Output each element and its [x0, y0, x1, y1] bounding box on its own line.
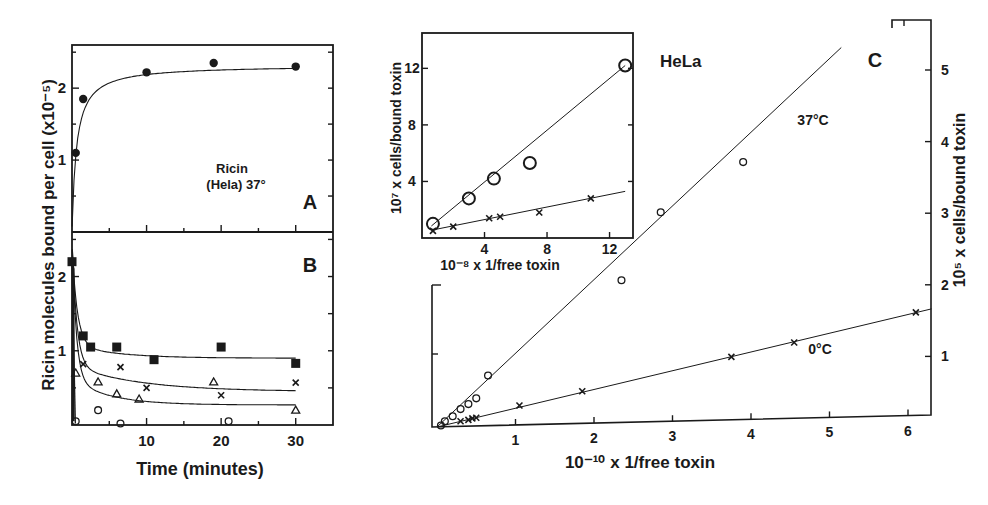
- data-point-filled-square: [217, 343, 226, 352]
- series-label-0c: 0°C: [808, 341, 832, 357]
- y-tick-label: 2: [58, 268, 66, 285]
- x-tick-label: 8: [543, 241, 551, 257]
- panel-letter-c: C: [868, 49, 882, 71]
- panel-a: 12: [58, 52, 333, 232]
- y-tick-label: 1: [58, 342, 66, 359]
- x-tick-label: 12: [602, 241, 618, 257]
- data-point-filled-square: [150, 355, 159, 364]
- data-point-triangle: [210, 378, 218, 385]
- y-tick-label: 2: [58, 79, 66, 96]
- inset-title: HeLa: [660, 52, 702, 71]
- x-axis-title: 10⁻¹⁰ x 1/free toxin: [565, 453, 715, 472]
- annotation: (Hela) 37°: [206, 177, 265, 192]
- panel-b: 12: [58, 239, 333, 425]
- fit-curve: [72, 250, 295, 405]
- fit-curve: [72, 255, 295, 358]
- data-point-triangle: [94, 378, 102, 385]
- panel-b-data: B102030: [68, 249, 318, 449]
- x-tick-label: 20: [213, 432, 230, 449]
- data-point-open-circle: [449, 413, 456, 420]
- data-point-filled-circle: [142, 68, 150, 76]
- data-point-open-circle: [618, 277, 625, 284]
- x-tick-label: 4: [481, 241, 489, 257]
- inset-panel: 4812481210⁷ x cells/bound toxin10⁻⁸ x 1/…: [388, 33, 633, 273]
- y-tick-label: 4: [941, 134, 949, 150]
- x-tick-label: 5: [826, 424, 834, 440]
- x-tick-label: 4: [747, 426, 755, 442]
- x-tick-label: 10: [138, 432, 155, 449]
- x-tick-label: 30: [287, 432, 304, 449]
- data-point-filled-square: [79, 331, 88, 340]
- data-point-filled-circle: [209, 59, 217, 67]
- data-point-open-circle: [740, 159, 747, 166]
- fit-curve: [72, 68, 296, 226]
- data-point-triangle: [292, 406, 300, 413]
- fit-curve: [72, 249, 295, 390]
- data-point-triangle: [113, 390, 121, 397]
- data-point-open-circle: [657, 209, 664, 216]
- initial-spike: [72, 258, 75, 421]
- data-point-filled-square: [291, 359, 300, 368]
- figure-canvas: 1212ARicin(Hela) 37°B102030Ricin molecul…: [0, 0, 988, 505]
- y-tick-label: 1: [58, 151, 66, 168]
- panel-ab-frame: [72, 45, 333, 425]
- data-point-filled-circle: [79, 95, 87, 103]
- y-tick-label: 2: [941, 277, 949, 293]
- y-axis-title: Ricin molecules bound per cell (x10⁻⁵): [39, 79, 58, 391]
- data-point-filled-square: [86, 343, 95, 352]
- x-tick-label: 6: [904, 423, 912, 439]
- panel-ab: 1212ARicin(Hela) 37°B102030: [58, 45, 333, 449]
- data-point-open-circle: [473, 395, 480, 402]
- y-axis-title: 10⁵ x cells/bound toxin: [951, 113, 968, 288]
- x-tick-label: 1: [512, 432, 520, 448]
- y-tick-label: 8: [408, 117, 416, 133]
- data-point-filled-square: [68, 257, 77, 266]
- x-axis-title: Time (minutes): [136, 459, 264, 479]
- annotation: Ricin: [216, 161, 248, 176]
- data-point-filled-circle: [292, 62, 300, 70]
- y-tick-label: 12: [404, 60, 420, 76]
- data-point-filled-square: [112, 343, 121, 352]
- y-tick-label: 5: [941, 62, 949, 78]
- panel-letter-b: B: [303, 254, 317, 276]
- data-point-open-circle: [95, 407, 102, 414]
- data-point-open-circle: [465, 401, 472, 408]
- inset-y-axis-title: 10⁷ x cells/bound toxin: [388, 62, 404, 214]
- data-point-open-circle: [225, 418, 232, 425]
- data-point-open-circle: [457, 406, 464, 413]
- fit-line-0c: [437, 309, 932, 427]
- x-tick-label: 3: [669, 428, 677, 444]
- panel-letter-a: A: [303, 191, 317, 213]
- y-tick-label: 4: [408, 173, 416, 189]
- series-label-37c: 37°C: [797, 112, 828, 128]
- data-point-open-circle: [485, 372, 492, 379]
- inset-x-axis-title: 10⁻⁸ x 1/free toxin: [440, 257, 559, 273]
- panel-a-data: ARicin(Hela) 37°: [72, 59, 318, 227]
- x-tick-label: 2: [590, 430, 598, 446]
- data-point-filled-circle: [72, 149, 80, 157]
- y-tick-label: 3: [941, 205, 949, 221]
- y-tick-label: 1: [941, 348, 949, 364]
